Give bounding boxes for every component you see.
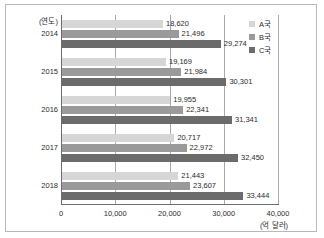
bar-2015-A국 [62, 58, 166, 66]
chart-frame: (연도) 20142015201620172018 18,62021,49629… [5, 4, 317, 232]
x-tick-0: 0 [59, 209, 63, 218]
bar-value-label: 31,341 [235, 116, 258, 124]
year-label-2018: 2018 [14, 181, 58, 190]
x-tick-40000: 40,000 [267, 209, 290, 218]
bar-value-label: 18,620 [166, 20, 189, 28]
year-label-2017: 2017 [14, 143, 58, 152]
bar-value-label: 19,955 [173, 96, 196, 104]
plot-area: 18,62021,49629,27419,16921,98430,30119,9… [61, 15, 279, 205]
bar-2015-B국 [62, 68, 181, 76]
bar-2016-C국 [62, 116, 232, 124]
legend-swatch-icon [249, 34, 255, 40]
bar-value-label: 33,444 [246, 192, 269, 200]
bar-value-label: 20,717 [177, 134, 200, 142]
bar-value-label: 19,169 [169, 58, 192, 66]
bar-2018-C국 [62, 192, 243, 200]
year-label-2016: 2016 [14, 105, 58, 114]
bar-2016-B국 [62, 106, 183, 114]
legend-swatch-icon [249, 21, 255, 27]
bar-value-label: 21,496 [182, 30, 205, 38]
bar-value-label: 22,341 [186, 106, 209, 114]
x-tick-30000: 30,000 [212, 209, 235, 218]
bar-2017-B국 [62, 144, 187, 152]
bar-2018-A국 [62, 172, 178, 180]
bar-2017-A국 [62, 134, 174, 142]
bar-value-label: 29,274 [224, 40, 247, 48]
legend-item-A국[interactable]: A국 [249, 18, 271, 29]
legend-label: B국 [259, 31, 271, 42]
y-axis-line [61, 15, 62, 205]
bar-2014-C국 [62, 40, 221, 48]
bar-value-label: 32,450 [241, 154, 264, 162]
x-tick-10000: 10,000 [104, 209, 127, 218]
x-axis-line [61, 204, 279, 205]
bar-2015-C국 [62, 78, 226, 86]
legend-label: C국 [259, 44, 271, 55]
x-axis-unit-label: (억 달러) [260, 219, 288, 230]
bar-value-label: 30,301 [229, 78, 252, 86]
plot-right-border [278, 15, 279, 205]
x-tick-20000: 20,000 [158, 209, 181, 218]
bar-2018-B국 [62, 182, 190, 190]
legend-item-C국[interactable]: C국 [249, 44, 271, 55]
legend-swatch-icon [249, 47, 255, 53]
bar-2017-C국 [62, 154, 238, 162]
bar-value-label: 21,984 [184, 68, 207, 76]
legend-label: A국 [259, 18, 271, 29]
bar-2014-B국 [62, 30, 179, 38]
y-axis-title: (연도) [14, 15, 58, 26]
bar-2016-A국 [62, 96, 170, 104]
year-label-2014: 2014 [14, 29, 58, 38]
bar-value-label: 21,443 [181, 172, 204, 180]
legend: A국B국C국 [249, 18, 271, 57]
year-label-2015: 2015 [14, 67, 58, 76]
bar-value-label: 23,607 [193, 182, 216, 190]
bar-value-label: 22,972 [190, 144, 213, 152]
bar-2014-A국 [62, 20, 163, 28]
legend-item-B국[interactable]: B국 [249, 31, 271, 42]
